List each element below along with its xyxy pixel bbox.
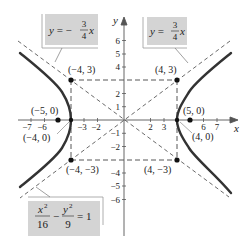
tick-y-p5: 5 [116,49,121,59]
tick-y-p4: 4 [116,62,121,72]
y-axis-label: y [112,14,118,26]
label-5-0: (5, 0) [183,105,205,117]
point-m4-m3 [68,157,73,162]
tick-y-m5: −5 [110,181,120,191]
callout-hyp-rhs: = 1 [77,210,91,222]
point-4-m3 [174,157,179,162]
callout-hyp-num2: y [62,203,68,215]
x-tick-labels: −7 −6 −3 −2 2 3 6 7 [22,122,220,132]
label-4-0: (4, 0) [192,131,214,143]
callout-neg-var: x [88,24,94,36]
label-m4-0: (−4, 0) [23,132,50,144]
label-m4-m3: (−4, −3) [66,164,99,176]
callout-pos-var: x [179,25,185,37]
tick-y-m6: −6 [110,195,120,205]
callout-negative-asymptote: y = − 3 4 x [42,14,98,62]
tick-y-m4: −4 [110,168,120,178]
callout-positive-asymptote: y = 3 4 x [143,17,188,63]
hyperbola-figure: −7 −6 −3 −2 2 3 6 7 6 5 4 2 1 −1 −2 −4 −… [0,0,252,248]
point-m5-0 [55,117,60,122]
tick-x-m7: −7 [22,122,32,132]
point-m4-0 [69,118,73,122]
point-m4-3 [68,77,73,82]
callout-pos-den: 4 [173,32,178,42]
callout-hyperbola-equation: x 2 16 − y 2 9 = 1 [28,187,103,236]
callout-hyp-exp1: 2 [44,202,48,210]
tick-y-p2: 2 [116,89,121,99]
tick-x-p2: 2 [148,122,153,132]
callout-hyp-den2: 9 [65,218,71,230]
x-axis-label: x [233,122,239,134]
tick-x-p7: 7 [215,122,220,132]
point-5-0 [187,117,192,122]
tick-x-m6: −6 [37,122,47,132]
point-4-0 [175,118,179,122]
callout-hyp-minus: − [53,210,59,222]
tick-y-m1: −1 [110,128,120,138]
label-4-m3: (4, −3) [144,164,171,176]
callout-pos-lhs: y = [149,25,164,37]
label-4-3: (4, 3) [155,64,177,76]
callout-hyp-exp2: 2 [69,202,73,210]
label-m4-3: (−4, 3) [68,64,95,76]
callout-neg-num: 3 [82,19,87,29]
tick-x-m3: −3 [77,122,87,132]
tick-y-p1: 1 [116,102,121,112]
tick-y-m2: −2 [110,142,120,152]
callout-neg-lhs: y = − [48,24,72,36]
y-axis-arrow-icon [121,17,127,25]
callout-hyp-den1: 16 [37,218,49,230]
point-4-3 [174,77,179,82]
hyperbola [20,53,231,193]
tick-x-p3: 3 [162,122,167,132]
callout-hyp-num1: x [37,203,43,215]
callout-pos-num: 3 [173,20,178,30]
callout-neg-den: 4 [82,31,87,41]
tick-y-p6: 6 [116,36,121,46]
tick-x-m2: −2 [91,122,101,132]
label-m5-0: (−5, 0) [31,105,58,117]
asymptote-negative [18,41,229,197]
